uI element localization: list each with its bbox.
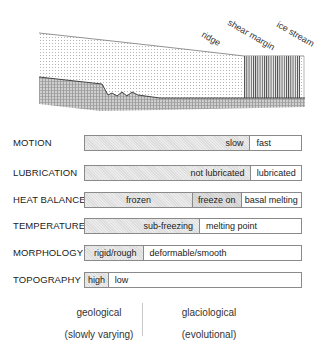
footer-geological-title: geological [59, 307, 139, 318]
bar-temperature: sub-freezing melting point [84, 218, 302, 234]
footer-geological-sub: (slowly varying) [59, 329, 139, 340]
segment-sub-freezing: sub-freezing [85, 219, 199, 233]
segment-frozen: frozen [85, 193, 192, 207]
bar-motion: slow fast [84, 135, 302, 151]
segment-fast: fast [249, 136, 301, 150]
segment-deformable-smooth: deformable/smooth [143, 246, 302, 260]
row-label-heat-balance: HEAT BALANCE [13, 194, 86, 205]
divider-line [142, 303, 143, 336]
ice-sheet-cross-section [0, 0, 324, 125]
row-label-motion: MOTION [13, 137, 52, 148]
segment-basal-melting: basal melting [241, 193, 301, 207]
row-label-topography: TOPOGRAPHY [13, 274, 81, 285]
bar-topography: high low [84, 272, 302, 288]
footer-glaciological-title: glaciological [164, 307, 254, 318]
segment-high: high [85, 273, 108, 287]
footer-glaciological-sub: (evolutional) [164, 329, 254, 340]
segment-not-lubricated: not lubricated [85, 166, 250, 180]
segment-low: low [108, 273, 301, 287]
bar-lubrication: not lubricated lubricated [84, 165, 302, 181]
segment-lubricated: lubricated [250, 166, 301, 180]
bar-morphology: rigid/rough deformable/smooth [84, 245, 302, 261]
ice-stream-region [244, 56, 300, 98]
row-label-morphology: MORPHOLOGY [13, 247, 83, 258]
row-label-lubrication: LUBRICATION [13, 167, 77, 178]
bar-heat-balance: frozen freeze on basal melting [84, 192, 302, 208]
segment-freeze-on: freeze on [192, 193, 241, 207]
row-label-temperature: TEMPERATURE [13, 220, 85, 231]
segment-rigid-rough: rigid/rough [85, 246, 143, 260]
segment-melting-point: melting point [199, 219, 301, 233]
segment-slow: slow [85, 136, 249, 150]
